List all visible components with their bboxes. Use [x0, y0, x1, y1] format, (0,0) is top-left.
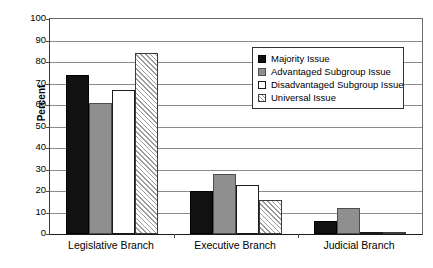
legend-item: Disadvantaged Subgroup Issue	[258, 78, 398, 91]
bar	[135, 53, 158, 234]
y-axis-tick-labels: 1009080706050403020100	[20, 0, 46, 268]
y-axis-tick-label: 60	[22, 99, 46, 109]
y-axis-tick-label: 50	[22, 121, 46, 131]
bar	[259, 200, 282, 234]
x-axis-category-labels: Legislative BranchExecutive BranchJudici…	[49, 238, 421, 256]
x-axis-category-label: Judicial Branch	[297, 238, 421, 256]
legend-swatch-icon	[258, 55, 266, 63]
chart-legend: Majority IssueAdvantaged Subgroup IssueD…	[252, 47, 404, 109]
x-axis-category-label: Executive Branch	[173, 238, 297, 256]
bar	[66, 75, 89, 234]
legend-item: Advantaged Subgroup Issue	[258, 65, 398, 78]
legend-label: Advantaged Subgroup Issue	[271, 66, 391, 77]
bar	[89, 103, 112, 234]
legend-label: Universal Issue	[271, 92, 336, 103]
legend-label: Majority Issue	[271, 53, 330, 64]
bar	[236, 185, 259, 234]
legend-swatch-icon	[258, 81, 266, 89]
bar	[314, 221, 337, 234]
legend-swatch-icon	[258, 68, 266, 76]
bar-group	[50, 19, 174, 234]
legend-item: Majority Issue	[258, 52, 398, 65]
y-axis-tick-label: 20	[22, 185, 46, 195]
bar	[383, 232, 406, 234]
y-axis-tick-label: 90	[22, 35, 46, 45]
bar	[360, 232, 383, 234]
bar	[213, 174, 236, 234]
y-axis-tick-label: 40	[22, 142, 46, 152]
x-axis-category-label: Legislative Branch	[49, 238, 173, 256]
bar	[337, 208, 360, 234]
bar	[190, 191, 213, 234]
legend-item: Universal Issue	[258, 91, 398, 104]
y-axis-tick-label: 80	[22, 56, 46, 66]
y-axis-tick-label: 30	[22, 164, 46, 174]
y-axis-tickmark	[46, 234, 50, 235]
legend-swatch-icon	[258, 94, 266, 102]
bar	[112, 90, 135, 234]
y-axis-tick-label: 70	[22, 78, 46, 88]
y-axis-tick-label: 0	[22, 228, 46, 238]
legend-label: Disadvantaged Subgroup Issue	[271, 79, 404, 90]
bar-chart: Percent 1009080706050403020100 Legislati…	[0, 0, 433, 268]
y-axis-tick-label: 100	[22, 13, 46, 23]
y-axis-tick-label: 10	[22, 207, 46, 217]
